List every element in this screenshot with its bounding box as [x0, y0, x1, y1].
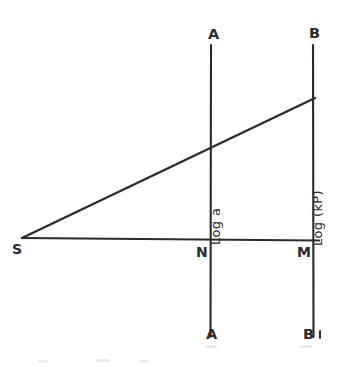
scan-artifact [38, 360, 48, 363]
right-foot-point-label: M [297, 245, 311, 259]
diagram-svg [0, 0, 355, 367]
right-axis-bottom-label: B [303, 327, 314, 342]
apex-point-label: S [12, 242, 22, 256]
diagram-canvas: A B A B S N M Log a Log (kP) [0, 0, 355, 367]
right-segment-label: Log (kP) [311, 190, 324, 246]
sloped-ray [22, 98, 315, 238]
scan-artifact [205, 345, 217, 348]
scan-artifact [300, 345, 312, 348]
left-foot-point-label: N [196, 245, 208, 259]
left-axis-top-label: A [208, 27, 220, 42]
scan-artifact [96, 359, 110, 362]
left-segment-label: Log a [209, 208, 222, 245]
scan-artifact [140, 360, 148, 363]
baseline [22, 238, 319, 241]
right-axis-top-label: B [309, 26, 320, 41]
left-axis-bottom-label: A [206, 327, 218, 342]
left-axis-line [211, 45, 212, 337]
